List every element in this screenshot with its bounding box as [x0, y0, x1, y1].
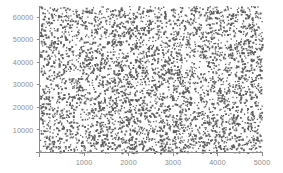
y-axis-tick-label: 40000	[13, 58, 34, 67]
scatter-chart-figure: 10002000300040005000 1000020000300004000…	[0, 0, 283, 173]
x-axis-tick-label: 5000	[254, 158, 271, 167]
y-axis-tick-label: 10000	[13, 126, 34, 135]
y-axis-tick-label: 60000	[13, 13, 34, 22]
y-axis-tick-label: 30000	[13, 80, 34, 89]
x-axis-tick-label: 2000	[120, 158, 137, 167]
y-axis-tick-label: 50000	[13, 35, 34, 44]
x-axis-tick-label: 3000	[165, 158, 182, 167]
x-axis-tick-label: 1000	[76, 158, 93, 167]
y-axis-tick-label: 20000	[13, 103, 34, 112]
x-axis-tick-label: 4000	[209, 158, 226, 167]
scatter-plot-svg: 10002000300040005000 1000020000300004000…	[0, 0, 283, 173]
